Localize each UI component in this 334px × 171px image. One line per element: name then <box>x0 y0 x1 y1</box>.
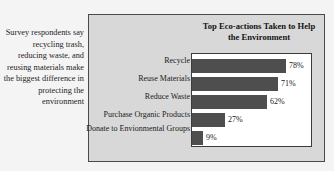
bar-value-label: 71% <box>278 78 296 90</box>
category-label: Reuse Materials <box>82 74 192 83</box>
caption-text: Survey respondents say recycling trash, … <box>2 27 84 108</box>
category-label: Purchase Organic Products <box>82 110 192 119</box>
category-axis: Recycle Reuse Materials Reduce Waste Pur… <box>82 54 192 146</box>
bar-row: 27% <box>192 112 311 129</box>
bar-purchase-organic-products <box>192 113 225 127</box>
category-label: Donate to Envionmental Groups <box>82 124 192 133</box>
bar-value-label: 27% <box>225 114 243 126</box>
category-label: Recycle <box>82 56 192 65</box>
bar-reduce-waste <box>192 95 267 109</box>
bar-row: 62% <box>192 94 311 111</box>
chart-title: Top Eco-actions Taken to Help the Enviro… <box>197 21 321 43</box>
bar-donate-to-envionmental-groups <box>192 131 203 145</box>
bar-value-label: 9% <box>203 132 217 144</box>
bar-row: 9% <box>192 130 311 147</box>
bar-row: 78% <box>192 58 311 75</box>
category-label: Reduce Waste <box>82 92 192 101</box>
bar-recycle <box>192 59 286 73</box>
chart-container: Top Eco-actions Taken to Help the Enviro… <box>88 14 325 162</box>
bar-row: 71% <box>192 76 311 93</box>
plot-area: Recycle Reuse Materials Reduce Waste Pur… <box>191 53 312 147</box>
bar-value-label: 62% <box>267 96 285 108</box>
bar-reuse-materials <box>192 77 278 91</box>
bar-value-label: 78% <box>286 60 304 72</box>
